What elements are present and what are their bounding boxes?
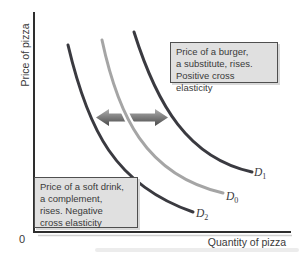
complement-annotation-line: rises. Negative [40, 205, 132, 217]
substitute-annotation-line: a substitute, rises. [176, 58, 272, 70]
complement-annotation-box: Price of a soft drink, a complement, ris… [34, 177, 138, 228]
origin-label: 0 [19, 233, 25, 245]
curve-label-d0-sub: 0 [234, 196, 238, 205]
substitute-annotation-line: Positive cross elasticity [176, 70, 272, 94]
curve-label-d1-sub: 1 [262, 172, 266, 181]
cross-elasticity-demand-diagram: Price of pizza Quantity of pizza 0 Price… [0, 0, 299, 254]
curve-label-d1: D1 [254, 166, 266, 178]
complement-annotation-line: Price of a soft drink, [40, 181, 132, 193]
curve-label-d2-sub: 2 [204, 213, 208, 222]
page-edge-shading [95, 248, 299, 252]
substitute-annotation-box: Price of a burger, a substitute, rises. … [170, 42, 278, 83]
y-axis-label: Price of pizza [19, 19, 31, 91]
complement-annotation-line: cross elasticity [40, 217, 132, 229]
complement-annotation-line: a complement, [40, 193, 132, 205]
curve-label-d0: D0 [226, 190, 238, 202]
x-axis-label: Quantity of pizza [208, 236, 286, 248]
curve-label-d2: D2 [196, 207, 208, 219]
substitute-annotation-line: Price of a burger, [176, 46, 272, 58]
